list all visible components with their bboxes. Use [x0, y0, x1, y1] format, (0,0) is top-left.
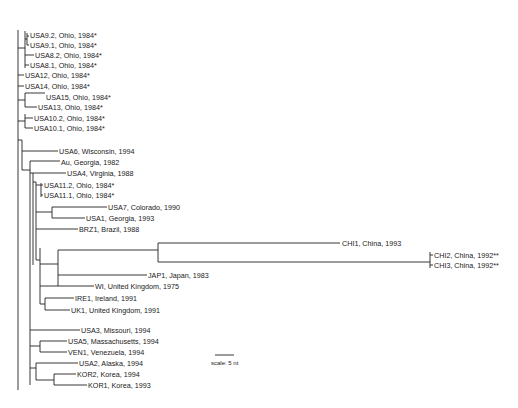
scale-bar-label: scale: 5 nt	[211, 360, 239, 366]
leaf-label: USA15, Ohio, 1984*	[46, 93, 111, 102]
leaf-label: USA2, Alaska, 1994	[79, 359, 143, 368]
leaf-label: USA9.1, Ohio, 1984*	[30, 41, 97, 50]
leaf-label: USA7, Colorado, 1990	[108, 203, 180, 212]
leaf-label: USA8.1, Ohio, 1984*	[30, 61, 97, 70]
leaf-label: USA8.2, Ohio, 1984*	[35, 51, 102, 60]
leaf-label: USA5, Massachusetts, 1994	[68, 337, 159, 346]
leaf-label: CHI1, China, 1993	[342, 239, 401, 248]
leaf-label: JAP1, Japan, 1983	[148, 271, 209, 280]
leaf-label: USA11.1, Ohio, 1984*	[44, 191, 114, 200]
leaf-label: UK1, United Kingdom, 1991	[71, 306, 160, 315]
leaf-label: KOR1, Korea, 1993	[88, 381, 151, 390]
leaf-label: KOR2, Korea, 1994	[77, 370, 140, 379]
leaf-label: Au, Georgia, 1982	[61, 158, 119, 167]
leaf-label: USA12, Ohio, 1984*	[25, 71, 90, 80]
leaf-label: USA14, Ohio, 1984*	[25, 82, 90, 91]
leaf-label: USA1, Georgia, 1993	[86, 214, 154, 223]
leaf-label: WI, United Kingdom, 1975	[95, 282, 179, 291]
phylogenetic-tree: USA9.2, Ohio, 1984* USA9.1, Ohio, 1984* …	[0, 0, 518, 408]
leaf-label: USA10.1, Ohio, 1984*	[34, 124, 105, 133]
leaf-label: USA13, Ohio, 1984*	[38, 103, 103, 112]
leaf-label: USA11.2, Ohio, 1984*	[44, 181, 114, 190]
leaf-labels: USA9.2, Ohio, 1984* USA9.1, Ohio, 1984* …	[25, 31, 499, 390]
leaf-label: CHI2, China, 1992**	[434, 251, 499, 260]
leaf-label: BRZ1, Brazil, 1988	[79, 225, 139, 234]
leaf-label: IRE1, Ireland, 1991	[75, 294, 137, 303]
leaf-label: VEN1, Venezuela, 1994	[68, 348, 144, 357]
leaf-label: USA6, Wisconsin, 1994	[59, 147, 135, 156]
leaf-label: USA4, Virginia, 1988	[67, 169, 134, 178]
leaf-label: USA10.2, Ohio, 1984*	[34, 114, 105, 123]
leaf-label: USA9.2, Ohio, 1984*	[30, 31, 97, 40]
leaf-label: USA3, Missouri, 1994	[81, 326, 151, 335]
leaf-label: CHI3, China, 1992**	[434, 261, 499, 270]
